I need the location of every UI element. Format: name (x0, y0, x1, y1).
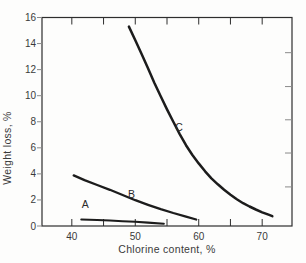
y-tick-label: 8 (30, 116, 36, 127)
y-tick-label: 2 (30, 194, 36, 205)
x-tick-label: 50 (130, 231, 142, 242)
x-axis-title: Chlorine content, % (118, 243, 215, 255)
x-tick-label: 70 (257, 231, 269, 242)
series-label-B: B (128, 188, 135, 200)
y-tick-label: 4 (30, 168, 36, 179)
y-tick-label: 16 (25, 12, 37, 23)
series-label-A: A (82, 198, 89, 210)
y-tick-label: 14 (25, 38, 37, 49)
y-tick-label: 10 (25, 90, 37, 101)
x-tick-label: 40 (66, 231, 78, 242)
y-tick-label: 6 (30, 142, 36, 153)
y-tick-label: 12 (25, 64, 37, 75)
series-label-C: C (175, 121, 183, 133)
plot-frame (42, 18, 292, 227)
line-chart-canvas: Chlorine content, % Weight loss, % 40506… (0, 0, 306, 263)
series-curve-C (129, 27, 272, 217)
weight-loss-vs-chlorine-chart: Chlorine content, % Weight loss, % 40506… (0, 0, 306, 263)
x-tick-label: 60 (193, 231, 205, 242)
series-curve-A (81, 220, 164, 224)
y-tick-label: 0 (30, 221, 36, 232)
y-axis-title: Weight loss, % (1, 111, 13, 184)
